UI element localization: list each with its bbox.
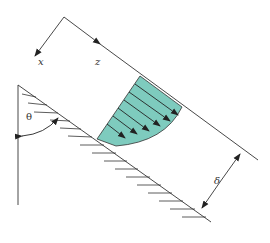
x-axis-arrow <box>35 17 64 56</box>
thickness-label: δ <box>214 175 220 186</box>
z-axis-label: z <box>95 56 100 67</box>
thickness-arrow-up <box>220 154 240 182</box>
z-axis-arrow <box>64 17 100 44</box>
inclined-wall <box>18 85 211 222</box>
angle-label: θ <box>26 111 32 122</box>
x-axis-label: x <box>38 56 44 67</box>
film-flow-diagram: x z θ δ <box>0 0 270 243</box>
coordinate-axes <box>35 17 100 56</box>
diagram-canvas <box>0 0 270 243</box>
